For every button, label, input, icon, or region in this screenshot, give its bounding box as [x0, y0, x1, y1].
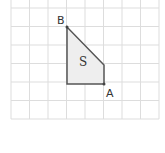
geometry-diagram: S BA — [0, 0, 165, 153]
shape-label: S — [79, 55, 87, 69]
point-b-dot — [66, 26, 69, 29]
point-b-label: B — [57, 14, 65, 27]
point-a-label: A — [106, 87, 114, 100]
point-a-dot — [103, 83, 106, 86]
